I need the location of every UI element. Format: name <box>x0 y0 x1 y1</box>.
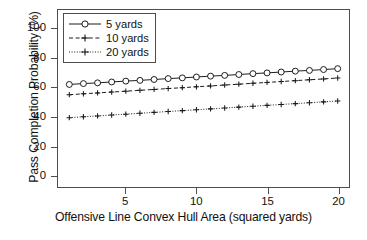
data-point-marker <box>208 83 213 88</box>
y-axis-tick-label: 100 <box>0 21 46 33</box>
data-point-marker <box>335 66 341 72</box>
y-axis-tick-label: 40 <box>0 110 46 122</box>
x-axis-title: Offensive Line Convex Hull Area (squared… <box>0 210 367 224</box>
data-point-marker <box>180 108 185 113</box>
data-point-marker <box>264 70 270 76</box>
data-point-marker <box>151 87 156 92</box>
data-point-marker <box>67 92 72 97</box>
data-point-marker <box>137 88 142 93</box>
data-point-marker <box>194 84 199 89</box>
data-point-marker <box>109 79 115 85</box>
data-point-marker <box>166 109 171 114</box>
legend-label: 5 yards <box>102 18 143 30</box>
legend-item-10-yards: 10 yards <box>68 31 149 45</box>
legend-label: 20 yards <box>102 46 149 58</box>
legend-label: 10 yards <box>102 32 149 44</box>
data-point-marker <box>95 90 100 95</box>
data-point-marker <box>109 89 114 94</box>
data-point-marker <box>321 67 327 73</box>
x-axis-tick <box>268 188 269 194</box>
data-point-marker <box>278 69 284 75</box>
x-axis-tick <box>339 188 340 194</box>
series-20-yards <box>67 98 341 120</box>
data-point-marker <box>180 85 185 90</box>
data-point-marker <box>179 75 185 81</box>
data-point-marker <box>250 71 256 77</box>
x-axis-tick-label: 10 <box>176 195 216 207</box>
data-point-marker <box>264 80 269 85</box>
data-point-marker <box>307 77 312 82</box>
data-point-marker <box>250 104 255 109</box>
data-point-marker <box>279 102 284 107</box>
data-point-marker <box>95 80 101 86</box>
data-point-marker <box>335 75 340 80</box>
legend-key-dashed-plus-icon <box>68 32 102 44</box>
data-point-marker <box>137 77 143 83</box>
data-point-marker <box>123 78 129 84</box>
legend: 5 yards 10 yards 20 yards <box>63 13 156 63</box>
data-point-marker <box>250 81 255 86</box>
data-point-marker <box>222 82 227 87</box>
data-point-marker <box>222 72 228 78</box>
data-point-marker <box>137 111 142 116</box>
legend-item-5-yards: 5 yards <box>68 17 149 31</box>
x-axis-tick-label: 20 <box>319 195 359 207</box>
data-point-marker <box>151 77 157 83</box>
data-point-marker <box>166 86 171 91</box>
x-axis-tick-label: 5 <box>105 195 145 207</box>
legend-item-20-yards: 20 yards <box>68 45 149 59</box>
data-point-marker <box>81 91 86 96</box>
data-point-marker <box>95 113 100 118</box>
legend-key-dotted-plus-icon <box>68 46 102 58</box>
data-point-marker <box>335 98 340 103</box>
data-point-marker <box>109 112 114 117</box>
data-point-marker <box>236 72 242 78</box>
x-axis-tick-label: 15 <box>248 195 288 207</box>
y-axis-tick-label: 80 <box>0 51 46 63</box>
data-point-marker <box>321 99 326 104</box>
data-point-marker <box>279 79 284 84</box>
data-point-marker <box>123 89 128 94</box>
data-point-marker <box>306 67 312 73</box>
data-point-marker <box>151 110 156 115</box>
x-axis-tick <box>196 188 197 194</box>
data-point-marker <box>80 81 86 87</box>
data-point-marker <box>194 107 199 112</box>
legend-key-solid-circle-icon <box>68 18 102 30</box>
data-point-marker <box>123 111 128 116</box>
data-point-marker <box>293 78 298 83</box>
x-axis-tick <box>125 188 126 194</box>
series-5-yards <box>66 66 340 88</box>
data-point-marker <box>293 101 298 106</box>
y-axis-tick-label: 20 <box>0 140 46 152</box>
data-point-marker <box>208 106 213 111</box>
data-point-marker <box>193 74 199 80</box>
data-point-marker <box>208 73 214 79</box>
data-point-marker <box>81 114 86 119</box>
data-point-marker <box>222 105 227 110</box>
y-axis-tick-label: 60 <box>0 80 46 92</box>
data-point-marker <box>321 76 326 81</box>
series-10-yards <box>67 75 341 97</box>
data-point-marker <box>236 104 241 109</box>
cropped-caption-fragment <box>0 232 367 240</box>
data-point-marker <box>67 115 72 120</box>
data-point-marker <box>307 100 312 105</box>
data-point-marker <box>236 81 241 86</box>
y-axis-tick-label: 0 <box>0 169 46 181</box>
chart-figure: Pass Completion Probability (%) 02040608… <box>0 0 367 240</box>
data-point-marker <box>264 103 269 108</box>
data-point-marker <box>66 81 72 87</box>
data-point-marker <box>165 76 171 82</box>
data-point-marker <box>292 68 298 74</box>
